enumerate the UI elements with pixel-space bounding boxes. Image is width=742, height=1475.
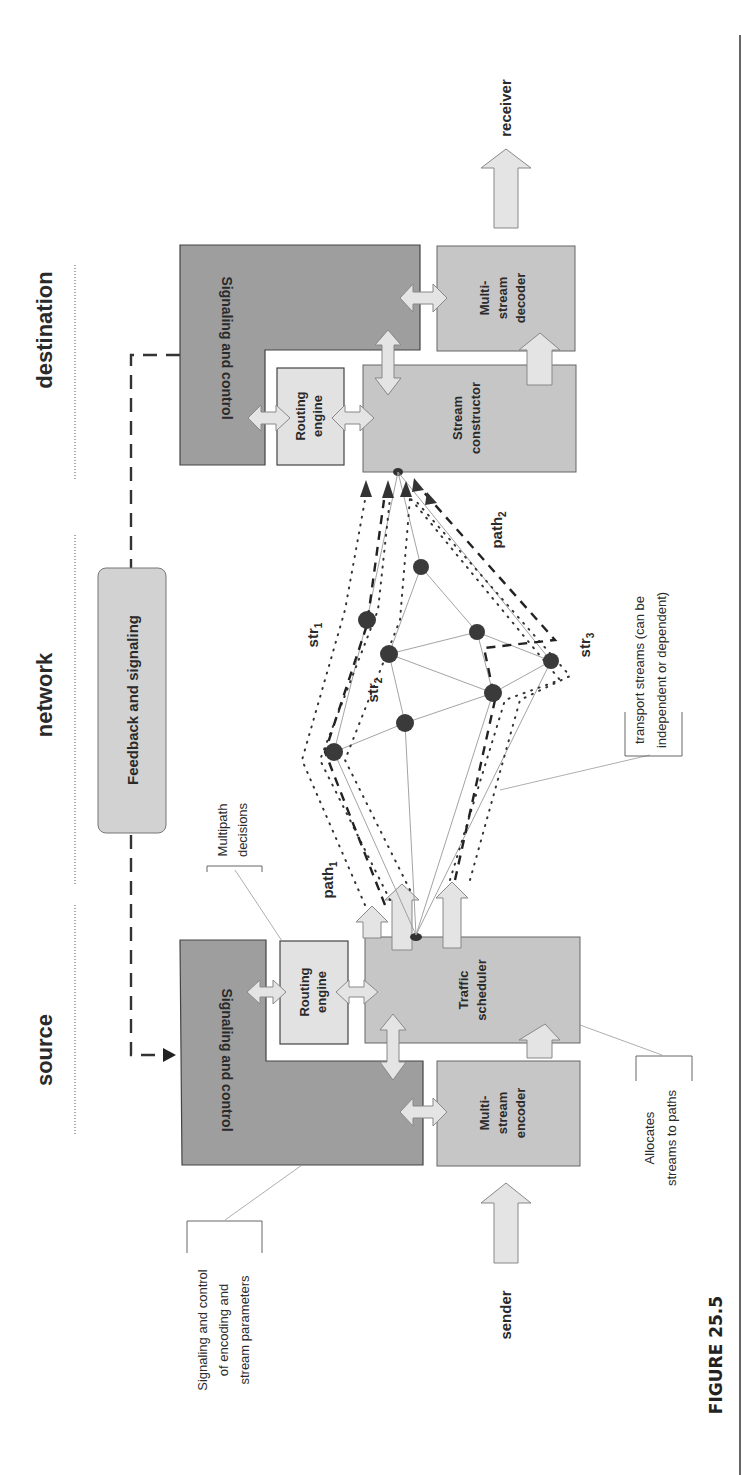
svg-text:str1: str1: [304, 622, 324, 647]
svg-text:decoder: decoder: [513, 273, 528, 324]
path1-label: path1: [319, 861, 339, 899]
network-node: [325, 743, 343, 761]
svg-text:Multi-: Multi-: [477, 1096, 492, 1131]
callout-transport-streams: transport streams (can be independent or…: [500, 592, 682, 790]
up-arrow-icon: [356, 906, 388, 938]
callout-allocates: Allocates streams to paths: [580, 1025, 692, 1186]
figure-canvas: source network destination Feedback and …: [0, 0, 742, 1475]
svg-text:encoder: encoder: [513, 1088, 528, 1139]
svg-text:stream parameters: stream parameters: [237, 1275, 252, 1385]
svg-text:Routing: Routing: [293, 391, 308, 440]
section-destination: destination: [32, 271, 57, 388]
destination-multistream-decoder: Multi- stream decoder: [437, 246, 575, 351]
str2-label: str2: [364, 677, 384, 702]
network-node: [543, 653, 559, 669]
arrowhead-icon: [382, 480, 394, 498]
svg-text:str2: str2: [364, 677, 384, 702]
network-node: [484, 684, 502, 702]
arrowhead-icon: [425, 492, 437, 505]
svg-text:engine: engine: [314, 971, 329, 1013]
arrowhead-icon: [360, 480, 372, 497]
svg-text:path2: path2: [488, 511, 508, 549]
svg-text:engine: engine: [310, 395, 325, 437]
callout-signaling-params: Signaling and control of encoding and st…: [187, 1165, 302, 1391]
str3-label: str3: [576, 632, 596, 657]
path2-label: path2: [488, 511, 508, 549]
svg-text:transport streams (can be: transport streams (can be: [632, 596, 647, 744]
svg-text:stream: stream: [495, 277, 510, 320]
network-nodes: [325, 559, 559, 761]
svg-text:Traffic: Traffic: [456, 970, 471, 1009]
network-node: [396, 714, 414, 732]
network-node: [380, 645, 398, 663]
str1-label: str1: [304, 622, 324, 647]
svg-text:Multipath: Multipath: [215, 804, 230, 857]
feedback-box: Feedback and signaling: [98, 568, 166, 833]
svg-text:Feedback and signaling: Feedback and signaling: [124, 615, 141, 785]
svg-text:Allocates: Allocates: [642, 1111, 657, 1164]
network-node: [413, 559, 429, 575]
svg-text:stream: stream: [495, 1092, 510, 1135]
callout-multipath-decisions: Multipath decisions: [207, 802, 282, 941]
sender-input-arrow-icon: [481, 1183, 531, 1263]
receiver-label: receiver: [497, 79, 514, 137]
stream-lines: [302, 498, 570, 905]
network-node: [358, 611, 376, 629]
stream-arrowheads: [360, 478, 437, 505]
network-node: [469, 624, 485, 640]
svg-text:Signaling and control: Signaling and control: [219, 276, 235, 419]
receiver-output-arrow-icon: [481, 149, 531, 228]
svg-text:independent or dependent): independent or dependent): [654, 592, 669, 748]
arrowhead-icon: [412, 478, 424, 492]
svg-text:str3: str3: [576, 632, 596, 657]
svg-text:path1: path1: [319, 861, 339, 899]
source-multistream-encoder: Multi- stream encoder: [437, 1061, 580, 1166]
section-network: network: [32, 652, 57, 737]
figure-caption: FIGURE 25.5: [706, 1296, 726, 1414]
svg-text:scheduler: scheduler: [474, 959, 489, 1020]
feedback-arrowhead-icon: [163, 1048, 176, 1062]
svg-text:decisions: decisions: [235, 802, 250, 857]
sender-label: sender: [497, 1290, 514, 1339]
svg-text:Multi-: Multi-: [477, 281, 492, 316]
svg-text:streams to paths: streams to paths: [664, 1089, 679, 1186]
section-source: source: [32, 1014, 57, 1086]
svg-text:of encoding and: of encoding and: [216, 1284, 231, 1377]
network-edges: [334, 472, 551, 935]
svg-text:Signaling and control: Signaling and control: [195, 1269, 210, 1391]
svg-text:Signaling and control: Signaling and control: [219, 988, 235, 1131]
svg-text:constructor: constructor: [468, 382, 483, 454]
path-lines: [325, 480, 555, 905]
svg-text:Routing: Routing: [297, 967, 312, 1016]
svg-text:Stream: Stream: [450, 396, 465, 440]
